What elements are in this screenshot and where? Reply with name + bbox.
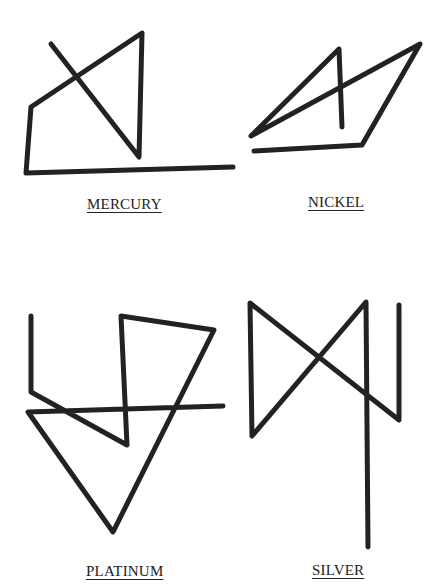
nickel-sigil bbox=[251, 44, 420, 151]
mercury-sigil bbox=[26, 33, 233, 173]
platinum-sigil bbox=[28, 316, 223, 532]
mercury-label: MERCURY bbox=[87, 196, 162, 213]
silver-label: SILVER bbox=[312, 562, 364, 579]
silver-sigil bbox=[250, 302, 399, 547]
platinum-label: PLATINUM bbox=[86, 563, 163, 580]
sigil-canvas bbox=[0, 0, 437, 584]
nickel-label: NICKEL bbox=[308, 194, 364, 211]
